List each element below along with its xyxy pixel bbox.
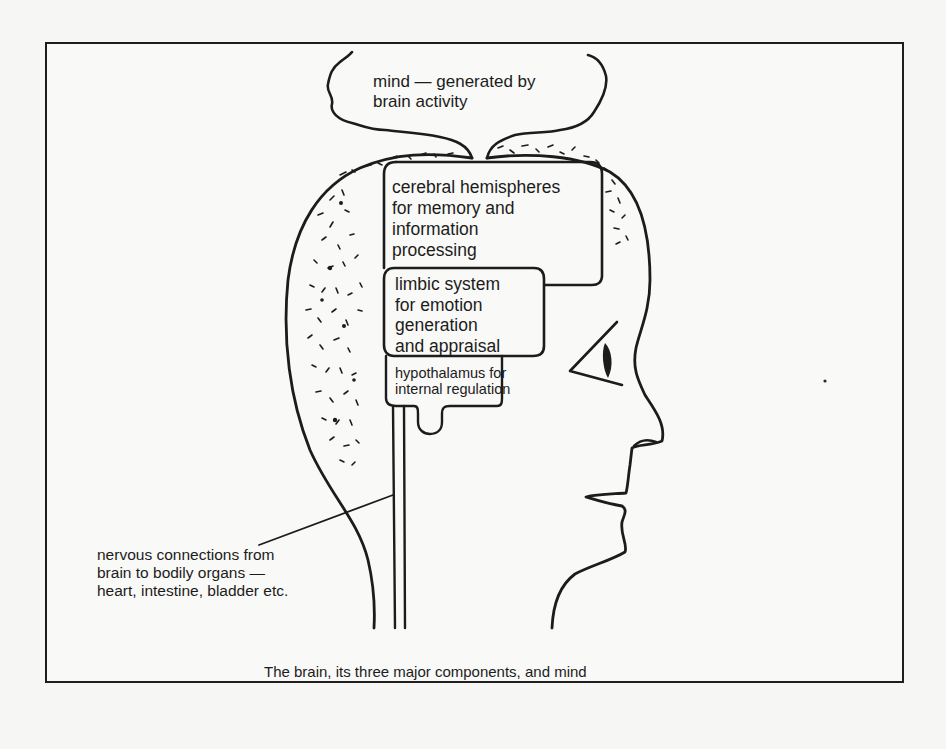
scanned-page: mind — generated by brain activity cereb…: [0, 0, 946, 749]
nervous-connections-label: nervous connections from brain to bodily…: [97, 546, 288, 600]
mind-label: mind — generated by brain activity: [373, 72, 536, 112]
nerves-leader-line: [259, 495, 393, 545]
spinal-cord-right-line: [404, 406, 405, 628]
cerebral-hemispheres-label: cerebral hemispheres for memory and info…: [392, 177, 560, 261]
hypothalamus-label: hypothalamus for internal regulation: [395, 365, 510, 397]
figure-caption: The brain, its three major components, a…: [264, 663, 587, 681]
limbic-system-label: limbic system for emotion generation and…: [395, 274, 500, 357]
eye-pupil: [603, 343, 612, 378]
scan-speck: [823, 379, 826, 382]
spinal-cord-left-line: [393, 406, 395, 628]
eye-outline: [570, 322, 622, 385]
